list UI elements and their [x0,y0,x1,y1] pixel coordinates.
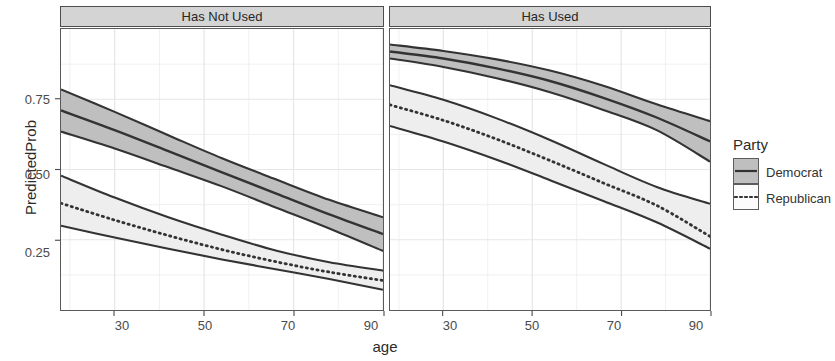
x-tick-label-left-70: 70 [268,318,308,333]
panel-left-canvas [61,29,383,310]
legend-key-republican[interactable] [733,184,759,210]
legend-key-democrat[interactable] [733,158,759,184]
facet-strip-label-right: Has Used [521,9,578,24]
x-tick-label-right-30: 30 [430,318,470,333]
panel-has-used [389,28,711,311]
legend-title: Party [733,136,768,153]
panel-has-not-used [60,28,384,311]
legend-label-democrat: Democrat [766,165,822,180]
x-axis-title: age [345,338,425,355]
x-tick-label-right-50: 50 [512,318,552,333]
x-tick-label-right-90: 90 [676,318,716,333]
x-tick-label-left-90: 90 [351,318,391,333]
facet-strip-has-used: Has Used [389,6,711,27]
panel-right-canvas [390,29,710,310]
y-tick-label-0.50: 0.50 [8,167,50,182]
legend-label-republican: Republican [766,191,831,206]
x-tick-label-left-50: 50 [185,318,225,333]
facet-strip-label-left: Has Not Used [182,9,263,24]
y-tick-label-0.25: 0.25 [8,245,50,260]
legend-line-republican-icon [734,185,758,209]
x-tick-label-left-30: 30 [102,318,142,333]
facet-strip-has-not-used: Has Not Used [60,6,384,27]
y-tick-label-0.75: 0.75 [8,92,50,107]
legend-line-democrat-icon [734,159,758,183]
x-tick-label-right-70: 70 [594,318,634,333]
